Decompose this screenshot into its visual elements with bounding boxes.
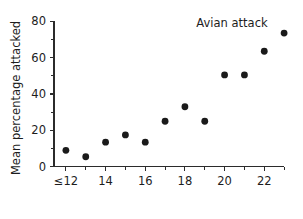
data-point [182,103,189,110]
data-point [82,153,89,160]
y-tick-label: 0 [39,160,46,174]
data-point [201,118,208,125]
y-axis: 020406080 [31,14,54,173]
x-tick-label: 16 [138,174,153,188]
y-tick-label: 40 [31,87,46,101]
x-tick-label: ≤12 [54,174,78,188]
y-axis-title: Mean percentage attacked [9,21,23,175]
chart-figure: 020406080 ≤121416182022 Mean percentage … [0,0,303,219]
data-point [122,132,129,139]
chart-title: Avian attack [196,16,268,30]
data-point [162,118,169,125]
data-point [261,48,268,55]
x-tick-label: 14 [98,174,113,188]
data-point [63,147,70,154]
data-point [221,72,228,79]
data-point [281,30,288,37]
x-axis: ≤121416182022 [54,167,284,188]
y-tick-label: 20 [31,123,46,137]
data-point [241,72,248,79]
y-tick-label: 60 [31,51,46,65]
data-point [102,139,109,146]
data-points-layer [63,30,288,160]
scatter-plot-canvas: 020406080 ≤121416182022 Mean percentage … [0,0,303,219]
x-tick-label: 22 [257,174,272,188]
y-tick-label: 80 [31,14,46,28]
x-tick-label: 20 [217,174,232,188]
data-point [142,139,149,146]
x-tick-label: 18 [178,174,193,188]
